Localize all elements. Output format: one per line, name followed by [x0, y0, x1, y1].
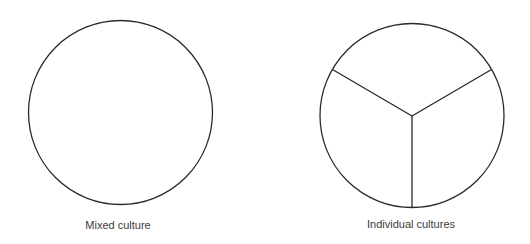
divider-right — [412, 70, 492, 117]
mixed-culture-circle — [29, 21, 213, 205]
diagram-canvas — [0, 0, 530, 244]
individual-cultures-group — [320, 24, 504, 208]
mixed-culture-label: Mixed culture — [85, 219, 150, 231]
divider-left — [333, 70, 413, 117]
individual-cultures-label: Individual cultures — [367, 218, 455, 230]
